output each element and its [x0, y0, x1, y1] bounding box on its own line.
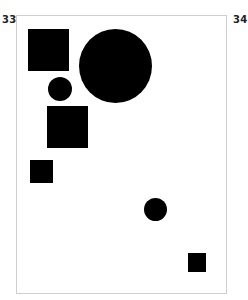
- page-number-left: 33: [2, 15, 17, 25]
- page-number-right: 34: [233, 15, 248, 25]
- square-shape: [47, 106, 88, 148]
- circle-shape: [144, 198, 167, 221]
- square-shape: [30, 160, 53, 183]
- square-shape: [28, 29, 69, 71]
- circle-shape: [48, 77, 72, 101]
- square-shape: [188, 253, 206, 272]
- circle-shape: [79, 29, 152, 103]
